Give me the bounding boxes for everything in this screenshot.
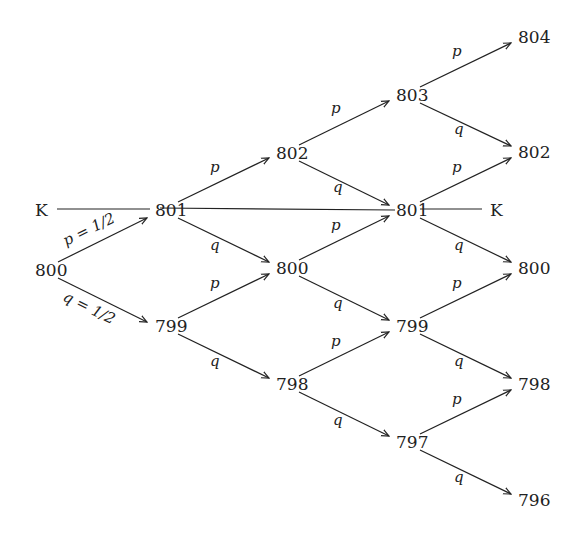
edge-label-p-first: p = 1/2	[60, 209, 118, 250]
edge-label-q: q	[210, 352, 220, 370]
tree-node: 799	[155, 318, 187, 335]
edge-label-q: q	[333, 411, 343, 429]
edge-label-p: p	[331, 216, 341, 234]
edge-label-p: p	[331, 99, 341, 117]
edge-label-q: q	[454, 120, 464, 138]
tree-node: 798	[276, 376, 308, 393]
tree-node: 800	[35, 262, 67, 279]
strike-label-right: K	[490, 202, 503, 219]
tree-node: 800	[518, 260, 550, 277]
tree-node: 801	[155, 202, 187, 219]
edge-label-q: q	[454, 468, 464, 486]
tree-node: 802	[276, 145, 308, 162]
strike-line-middle	[160, 208, 395, 210]
tree-node: 796	[518, 492, 550, 509]
edge-label-p: p	[331, 332, 341, 350]
edge-label-p: p	[452, 274, 462, 292]
strike-label-left: K	[35, 202, 48, 219]
tree-node: 799	[396, 318, 428, 335]
edge-label-q: q	[333, 178, 343, 196]
edge-label-q: q	[454, 352, 464, 370]
edge-label-p: p	[210, 274, 220, 292]
tree-node: 800	[276, 260, 308, 277]
edge-label-p: p	[452, 42, 462, 60]
binomial-tree-diagram: p = 1/2 q = 1/2 p q p q p q p q p q p q …	[0, 0, 585, 535]
edge-label-p: p	[452, 390, 462, 408]
edge-label-q: q	[210, 236, 220, 254]
edge-label-p: p	[452, 158, 462, 176]
tree-node: 798	[518, 376, 550, 393]
tree-node: 802	[518, 144, 550, 161]
edge-label-q: q	[454, 236, 464, 254]
tree-node: 803	[396, 87, 428, 104]
edge-label-q: q	[333, 294, 343, 312]
edge-label-p: p	[210, 158, 220, 176]
tree-node: 804	[518, 29, 550, 46]
tree-node: 797	[396, 434, 428, 451]
tree-node: 801	[396, 202, 428, 219]
